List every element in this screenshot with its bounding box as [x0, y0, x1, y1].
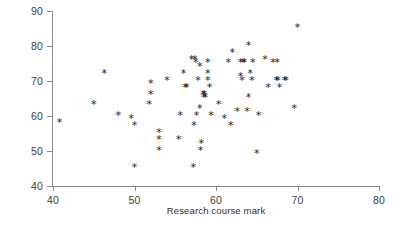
y-tick-label-80: 80 — [21, 40, 43, 52]
x-tick-40 — [53, 186, 54, 191]
data-point: * — [146, 79, 155, 88]
data-point: * — [114, 111, 123, 120]
data-point: * — [176, 111, 185, 120]
x-tick-50 — [135, 186, 136, 191]
data-point: * — [282, 76, 291, 85]
y-tick-label-60: 60 — [21, 110, 43, 122]
data-point: * — [197, 139, 206, 148]
y-tick-50 — [47, 151, 53, 152]
y-axis-line — [52, 11, 53, 187]
data-point: * — [179, 69, 188, 78]
data-point: * — [293, 23, 302, 32]
data-point: * — [195, 104, 204, 113]
x-tick-80 — [379, 186, 380, 191]
data-point: * — [248, 58, 257, 67]
data-point: * — [205, 83, 214, 92]
y-tick-60 — [47, 116, 53, 117]
data-point: * — [130, 163, 139, 172]
data-point: * — [203, 58, 212, 67]
data-point: * — [228, 48, 237, 57]
data-point: * — [154, 135, 163, 144]
data-point: * — [233, 107, 242, 116]
data-point: * — [244, 93, 253, 102]
data-point: * — [55, 118, 64, 127]
y-tick-label-90: 90 — [21, 5, 43, 17]
y-tick-80 — [47, 46, 53, 47]
y-tick-90 — [47, 11, 53, 12]
data-point: * — [145, 100, 154, 109]
data-point: * — [247, 76, 256, 85]
x-tick-60 — [216, 186, 217, 191]
x-tick-label-60: 60 — [201, 194, 231, 206]
data-point: * — [290, 104, 299, 113]
data-point: * — [130, 121, 139, 130]
y-tick-70 — [47, 81, 53, 82]
data-point: * — [214, 100, 223, 109]
data-point: * — [189, 121, 198, 130]
x-tick-label-40: 40 — [38, 194, 68, 206]
x-tick-label-70: 70 — [283, 194, 313, 206]
data-point: * — [201, 93, 210, 102]
data-point: * — [174, 135, 183, 144]
data-point: * — [207, 111, 216, 120]
data-point: * — [244, 41, 253, 50]
plot-area: ****************************************… — [53, 11, 379, 186]
y-tick-label-40: 40 — [21, 180, 43, 192]
scatter-plot-figure: Dissertation mark Research course mark *… — [0, 0, 400, 225]
data-point: * — [273, 58, 282, 67]
data-point: * — [252, 149, 261, 158]
data-point: * — [100, 69, 109, 78]
data-point: * — [146, 90, 155, 99]
data-point: * — [226, 121, 235, 130]
x-tick-70 — [298, 186, 299, 191]
data-point: * — [254, 111, 263, 120]
data-point: * — [224, 58, 233, 67]
data-point: * — [89, 100, 98, 109]
y-tick-label-70: 70 — [21, 75, 43, 87]
y-tick-label-50: 50 — [21, 145, 43, 157]
data-point: * — [194, 76, 203, 85]
x-tick-label-80: 80 — [364, 194, 394, 206]
data-point: * — [154, 146, 163, 155]
data-point: * — [242, 107, 251, 116]
x-tick-label-50: 50 — [120, 194, 150, 206]
x-axis-title: Research course mark — [53, 205, 379, 216]
data-point: * — [189, 163, 198, 172]
data-point: * — [163, 76, 172, 85]
data-point: * — [182, 83, 191, 92]
